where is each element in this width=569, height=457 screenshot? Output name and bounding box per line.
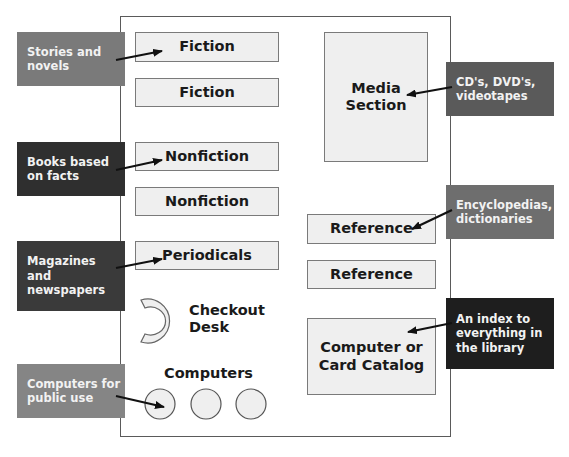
computer-station-2 [191,389,221,419]
diagram-overlay [0,0,569,457]
arrow-fiction [116,51,162,60]
arrow-nonfiction [116,160,162,170]
arrow-media [407,87,452,95]
computer-station-3 [236,389,266,419]
checkout-desk-icon [141,299,170,343]
arrow-periodicals [116,259,162,268]
arrow-catalog [408,323,452,332]
arrow-reference [412,210,452,229]
